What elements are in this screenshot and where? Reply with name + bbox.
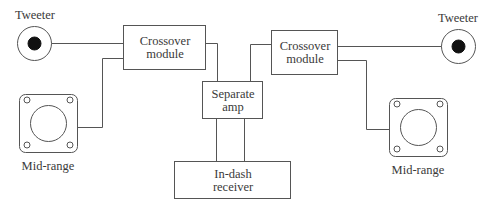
tweeter-left-label: Tweeter: [9, 9, 61, 22]
tweeter-speaker-icon: [18, 27, 52, 61]
midrange-speaker-icon: [20, 95, 78, 153]
wire-midrange-right-to-crossover-right: [338, 61, 390, 130]
midrange-left-label: Mid-range: [14, 160, 82, 173]
receiver-label-line2: receiver: [213, 181, 253, 194]
crossover-left-label-line2: module: [146, 48, 184, 61]
receiver-label-line1: In-dash: [214, 168, 252, 181]
amp-label: Separate amp: [203, 82, 263, 119]
amp-label-line1: Separate: [211, 88, 254, 101]
receiver-label: In-dash receiver: [175, 162, 291, 199]
wire-crossover-left-to-amp: [206, 44, 218, 82]
tweeter-speaker-icon: [442, 30, 476, 64]
midrange-speaker-icon: [390, 99, 448, 157]
amp-label-line2: amp: [222, 101, 244, 114]
tweeter-right-label: Tweeter: [432, 12, 484, 25]
crossover-right-label: Crossover module: [272, 31, 338, 75]
crossover-right-label-line2: module: [286, 53, 324, 66]
wire-midrange-left-to-crossover-left: [78, 59, 124, 128]
midrange-right-label: Mid-range: [384, 164, 452, 177]
wire-crossover-right-to-amp: [251, 45, 272, 82]
crossover-left-label: Crossover module: [124, 26, 206, 70]
